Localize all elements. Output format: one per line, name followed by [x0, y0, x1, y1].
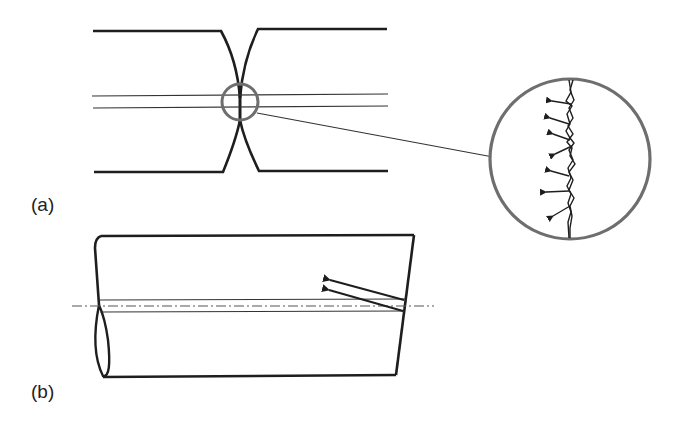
magnified-crack-detail	[490, 79, 650, 239]
bar-left-bottom-edge	[94, 120, 240, 172]
band-line-lower	[100, 311, 404, 312]
bar-right-bottom-edge	[240, 120, 388, 171]
detail-leader-line	[257, 113, 493, 157]
cylinder-right-end	[396, 235, 414, 375]
crack-arrow-6	[546, 191, 569, 192]
cylinder-arrow-lower	[329, 290, 403, 311]
cylinder-arrow-upper	[330, 280, 404, 300]
cylinder-bottom-edge	[103, 375, 396, 377]
bar-right-top-edge	[240, 29, 387, 98]
diagram-canvas	[0, 0, 687, 424]
panel-label-b: (b)	[31, 381, 54, 403]
panel-b-cylinder	[72, 235, 434, 377]
bar-left-top-edge	[93, 31, 240, 98]
cylinder-top-edge	[95, 235, 414, 305]
panel-a-necked-bar	[92, 29, 493, 172]
cylinder-left-end	[95, 305, 109, 376]
panel-label-a: (a)	[31, 194, 54, 216]
